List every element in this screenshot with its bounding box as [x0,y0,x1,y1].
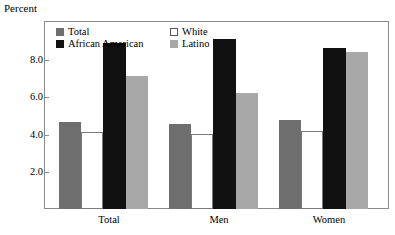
legend-swatch-white-icon [170,28,178,36]
legend-swatch-african-american-icon [56,40,64,48]
legend-swatch-latino-icon [170,40,178,48]
legend-entry-african-american: African American [56,38,170,50]
legend-row-2: African American Latino [56,38,209,50]
x-tick-label-total: Total [59,214,159,226]
legend: Total White African American Latino [56,26,209,50]
x-tick-label-men: Men [169,214,269,226]
legend-label-total: Total [68,26,89,38]
legend-entry-latino: Latino [170,38,209,50]
y-axis-title: Percent [4,2,37,15]
legend-label-white: White [182,26,208,38]
bar-group-total [59,22,159,209]
bar-women-total [279,120,301,209]
bar-total-latino [126,76,148,209]
plot-area [45,22,388,209]
bar-men-latino [236,93,258,209]
x-tick-label-women: Women [279,214,379,226]
bar-group-men [169,22,269,209]
bar-total-white [81,132,103,209]
y-tick-label-2: 2.0 [30,167,43,177]
bar-men-total [169,124,191,209]
bar-women-african-american [323,48,346,209]
bar-group-women [279,22,379,209]
bar-total-total [59,122,81,209]
y-tick-label-4: 4.0 [30,130,43,140]
bar-chart: Percent 8.0 6.0 4.0 2.0 Total Me [0,0,395,235]
legend-swatch-total-icon [56,28,64,36]
y-tick-label-6: 6.0 [30,92,43,102]
bar-total-african-american [103,43,126,209]
legend-entry-white: White [170,26,208,38]
legend-label-latino: Latino [182,38,209,50]
legend-label-african-american: African American [68,38,144,50]
bar-men-white [191,134,213,209]
bar-men-african-american [213,39,236,209]
y-tick-label-8: 8.0 [30,55,43,65]
bar-women-latino [346,52,368,209]
legend-entry-total: Total [56,26,170,38]
bar-women-white [301,131,323,209]
legend-row-1: Total White [56,26,209,38]
